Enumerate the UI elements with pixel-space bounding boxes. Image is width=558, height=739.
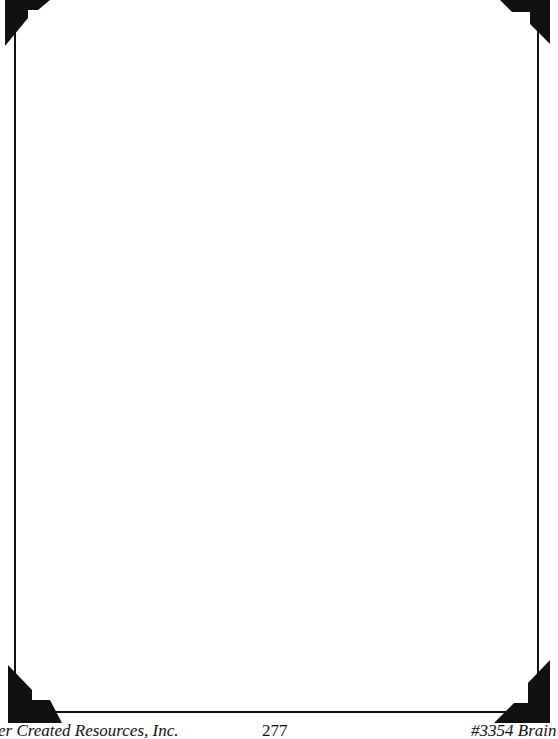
footer-publisher: er Created Resources, Inc.	[0, 722, 179, 739]
bottom-left-corner-icon	[0, 660, 70, 725]
frame-left-line	[14, 30, 16, 713]
top-left-corner-icon	[0, 0, 55, 50]
page-number: 277	[262, 722, 288, 739]
top-right-corner-icon	[500, 0, 558, 50]
frame-right-line	[537, 30, 539, 713]
frame-bottom-line	[14, 711, 539, 713]
footer-book-title: #3354 Brain	[471, 722, 556, 739]
bottom-right-corner-icon	[490, 655, 558, 725]
